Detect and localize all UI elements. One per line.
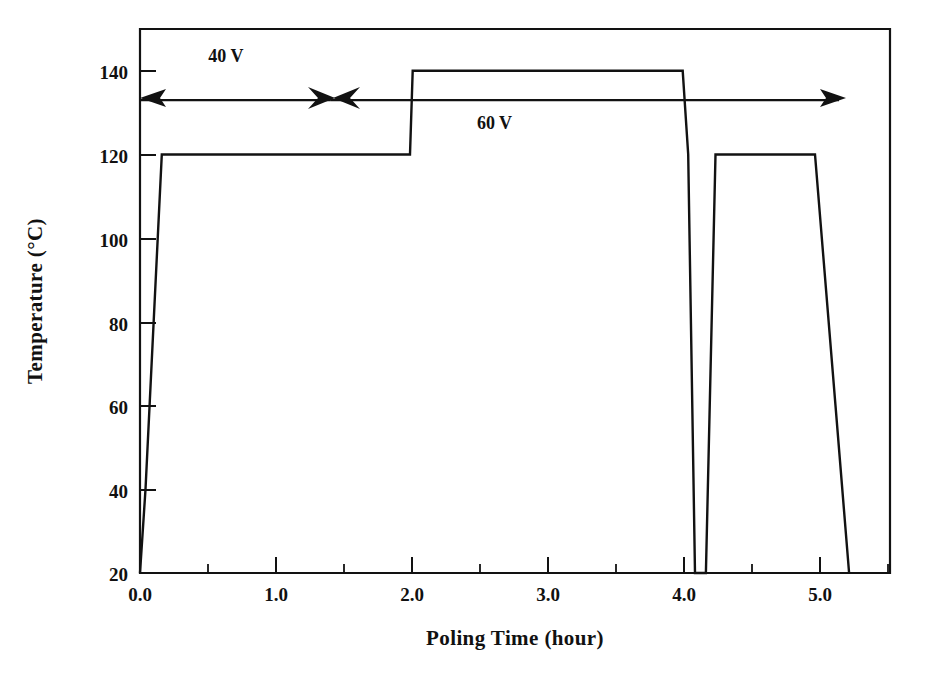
temperature-profile-line	[140, 71, 849, 573]
figure-container: 140 120 100 80 60 40 20 0.0 1.0 2.0 3.0 …	[0, 0, 932, 694]
y-tick-label-80: 80	[109, 314, 128, 335]
y-tick-label-40: 40	[109, 481, 128, 502]
y-tick-label-100: 100	[100, 230, 129, 251]
y-tick-label-120: 120	[100, 146, 129, 167]
x-tick-label-2-0: 2.0	[400, 584, 424, 605]
y-tick-label-140: 140	[100, 62, 129, 83]
annot-40v-arrowhead-left	[140, 89, 166, 107]
x-tick-label-3-0: 3.0	[536, 584, 560, 605]
plot-frame	[140, 29, 890, 573]
annotation-span-junction-marker	[308, 87, 360, 109]
y-axis-title: Temperature (°C)	[23, 218, 47, 384]
y-tick-label-60: 60	[109, 397, 128, 418]
x-axis-title: Poling Time (hour)	[426, 626, 604, 650]
junction-right-wedge	[333, 87, 360, 109]
x-axis-tick-labels: 0.0 1.0 2.0 3.0 4.0 5.0	[128, 584, 832, 605]
y-axis-tick-labels: 140 120 100 80 60 40 20	[100, 62, 129, 585]
x-tick-label-0-0: 0.0	[128, 584, 152, 605]
x-tick-label-5-0: 5.0	[808, 584, 832, 605]
temperature-profile-chart: 140 120 100 80 60 40 20 0.0 1.0 2.0 3.0 …	[0, 0, 932, 694]
annot-60v-label: 60 V	[477, 113, 512, 133]
x-tick-label-4-0: 4.0	[672, 584, 696, 605]
annotation-60v: 60 V	[331, 89, 846, 133]
annot-40v-label: 40 V	[208, 46, 243, 66]
x-axis-ticks	[140, 557, 888, 573]
junction-left-wedge	[308, 87, 335, 109]
x-tick-label-1-0: 1.0	[264, 584, 288, 605]
annot-60v-arrowhead-right	[820, 89, 846, 107]
y-tick-label-20: 20	[109, 564, 128, 585]
annotation-40v: 40 V	[140, 46, 331, 107]
